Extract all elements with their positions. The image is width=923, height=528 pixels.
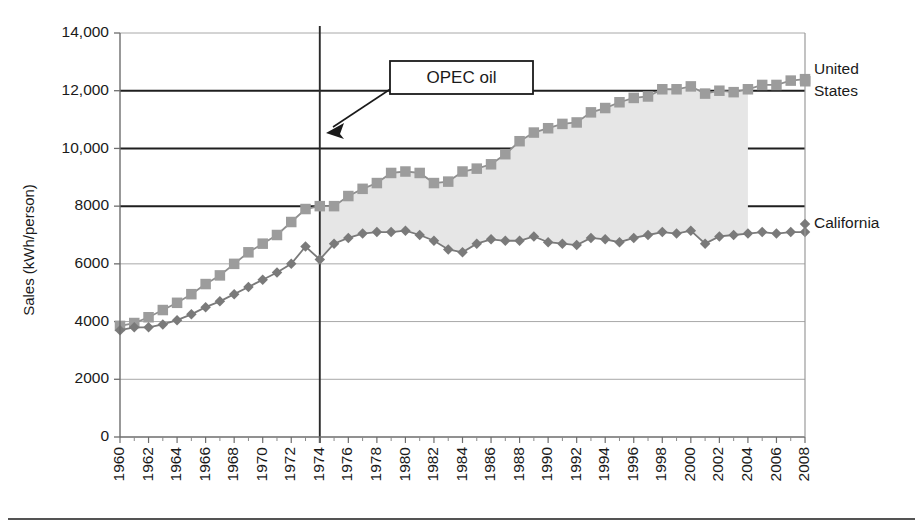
data-point-marker	[629, 93, 640, 104]
data-point-marker	[400, 166, 411, 177]
chart-svg: 0200040006000800010,00012,00014,000 1960…	[0, 0, 923, 528]
data-point-marker	[743, 84, 754, 95]
x-tick-label: 1994	[595, 447, 612, 482]
x-tick-label: 1968	[224, 447, 241, 481]
data-point-marker	[172, 298, 183, 309]
data-point-marker	[429, 178, 440, 189]
data-point-marker	[686, 81, 697, 92]
x-tick-label: 2008	[795, 447, 812, 481]
data-point-marker	[257, 238, 268, 249]
legend-swatch-united-states	[800, 76, 811, 87]
data-point-marker	[386, 168, 397, 179]
y-tick-label: 12,000	[62, 81, 110, 98]
x-tick-label: 2002	[709, 447, 726, 481]
series-label-california: California	[814, 214, 880, 231]
x-tick-label: 1978	[367, 447, 384, 481]
data-point-marker	[557, 119, 568, 129]
x-tick-label: 1986	[481, 447, 498, 481]
data-point-marker	[643, 91, 654, 102]
data-point-marker	[728, 87, 739, 98]
data-point-marker	[586, 107, 597, 118]
x-tick-label: 1960	[110, 447, 127, 482]
data-point-marker	[443, 176, 454, 187]
data-point-marker	[186, 289, 197, 300]
x-tick-label: 1984	[453, 447, 470, 482]
data-point-marker	[486, 159, 497, 170]
data-point-marker	[500, 149, 511, 160]
x-tick-label: 1966	[196, 447, 213, 481]
data-point-marker	[158, 305, 169, 316]
data-point-marker	[457, 166, 468, 177]
data-point-marker	[414, 168, 425, 179]
annotation-label: OPEC oil	[427, 68, 497, 87]
y-tick-label: 8000	[75, 196, 110, 213]
x-tick-label: 1962	[139, 447, 156, 481]
x-tick-label: 1974	[310, 447, 327, 482]
data-point-marker	[757, 80, 768, 91]
data-point-marker	[785, 75, 796, 86]
data-point-marker	[372, 178, 383, 189]
data-point-marker	[272, 230, 283, 241]
data-point-marker	[543, 123, 554, 134]
data-point-marker	[571, 117, 582, 128]
data-point-marker	[529, 127, 540, 138]
y-tick-label: 10,000	[62, 139, 110, 156]
y-tick-label: 0	[100, 427, 109, 444]
data-point-marker	[143, 312, 154, 323]
y-tick-label: 6000	[75, 254, 110, 271]
x-tick-label: 1988	[510, 447, 527, 481]
data-point-marker	[514, 136, 525, 147]
x-tick-label: 1972	[281, 447, 298, 481]
x-tick-label: 1990	[538, 447, 555, 482]
data-point-marker	[472, 163, 483, 174]
x-tick-label: 1964	[167, 447, 184, 482]
x-tick-label: 1970	[253, 447, 270, 482]
series-label-us-line1: United	[814, 60, 859, 77]
data-point-marker	[329, 201, 340, 212]
data-point-marker	[215, 270, 226, 281]
x-tick-label: 1992	[567, 447, 584, 481]
y-tick-label: 4000	[75, 312, 110, 329]
series-label-us-line2: States	[814, 82, 858, 99]
data-point-marker	[600, 103, 611, 114]
data-point-marker	[315, 201, 326, 212]
x-tick-label: 2000	[681, 447, 698, 482]
data-point-marker	[286, 217, 297, 228]
data-point-marker	[771, 80, 782, 91]
data-point-marker	[671, 84, 682, 95]
data-point-marker	[343, 191, 354, 202]
data-point-marker	[300, 204, 311, 215]
x-tick-label: 2004	[738, 447, 755, 482]
data-point-marker	[614, 97, 625, 108]
y-axis-title: Sales (kWh/person)	[20, 184, 37, 316]
x-tick-label: 1998	[652, 447, 669, 481]
x-tick-label: 1976	[338, 447, 355, 481]
data-point-marker	[700, 88, 711, 99]
x-tick-label: 1980	[396, 447, 413, 482]
data-point-marker	[229, 259, 240, 270]
data-point-marker	[243, 247, 254, 257]
data-point-marker	[357, 184, 368, 195]
y-tick-label: 2000	[75, 369, 110, 386]
x-tick-label: 1996	[624, 447, 641, 481]
series-label-ca-line1: California	[814, 214, 880, 231]
chart-figure: 0200040006000800010,00012,00014,000 1960…	[0, 0, 923, 528]
data-point-marker	[714, 85, 725, 96]
x-tick-label: 1982	[424, 447, 441, 481]
y-tick-label: 14,000	[62, 23, 110, 40]
data-point-marker	[657, 84, 668, 95]
data-point-marker	[200, 279, 211, 290]
x-tick-label: 2006	[767, 447, 784, 481]
